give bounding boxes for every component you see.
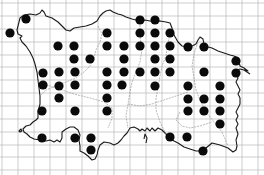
record-dot bbox=[215, 119, 224, 128]
record-dot bbox=[215, 81, 224, 90]
record-dot bbox=[150, 54, 159, 63]
record-dot bbox=[199, 42, 208, 51]
record-dot bbox=[199, 67, 208, 76]
record-dot bbox=[119, 41, 128, 50]
record-dot bbox=[102, 80, 111, 89]
record-dot bbox=[199, 106, 208, 115]
record-dot bbox=[70, 133, 79, 142]
record-dot bbox=[86, 133, 95, 142]
record-dot bbox=[135, 28, 144, 37]
record-dot bbox=[150, 15, 159, 24]
record-dot bbox=[183, 42, 192, 51]
record-dot bbox=[54, 81, 63, 90]
record-dot bbox=[117, 80, 126, 89]
record-dot bbox=[150, 28, 159, 37]
record-dot bbox=[70, 106, 79, 115]
record-dot bbox=[119, 54, 128, 63]
record-dot bbox=[69, 54, 78, 63]
record-dot bbox=[215, 94, 224, 103]
record-dot bbox=[135, 67, 144, 76]
record-dot bbox=[102, 106, 111, 115]
record-dot bbox=[183, 106, 192, 115]
record-dot bbox=[37, 133, 46, 142]
record-dot bbox=[53, 41, 62, 50]
record-dot bbox=[165, 28, 174, 37]
record-dot bbox=[5, 28, 14, 37]
map-canvas bbox=[0, 0, 264, 175]
record-dot bbox=[54, 93, 63, 102]
record-dot bbox=[85, 54, 94, 63]
record-dot bbox=[102, 67, 111, 76]
record-dot bbox=[135, 15, 144, 24]
record-dot bbox=[165, 132, 174, 141]
record-dot bbox=[198, 146, 207, 155]
record-dot bbox=[183, 94, 192, 103]
record-dot bbox=[165, 67, 174, 76]
record-dot bbox=[38, 68, 47, 77]
record-dot bbox=[119, 67, 128, 76]
record-dot bbox=[102, 41, 111, 50]
record-dot bbox=[150, 67, 159, 76]
record-dot bbox=[54, 67, 63, 76]
record-dot bbox=[38, 80, 47, 89]
record-dot bbox=[102, 93, 111, 102]
record-dot bbox=[21, 14, 30, 23]
record-dot bbox=[215, 106, 224, 115]
record-dot bbox=[70, 80, 79, 89]
record-dot bbox=[199, 94, 208, 103]
record-dot bbox=[231, 56, 240, 65]
record-dot bbox=[69, 41, 78, 50]
record-dot bbox=[183, 81, 192, 90]
record-dot bbox=[182, 132, 191, 141]
record-dot bbox=[150, 41, 159, 50]
record-dot bbox=[102, 28, 111, 37]
record-dot bbox=[37, 106, 46, 115]
record-dot bbox=[86, 145, 95, 154]
record-dot bbox=[150, 81, 159, 90]
record-dot bbox=[165, 54, 174, 63]
record-dot bbox=[135, 41, 144, 50]
record-dot bbox=[165, 41, 174, 50]
record-dot bbox=[231, 68, 240, 77]
record-dot bbox=[70, 67, 79, 76]
distribution-map bbox=[0, 0, 264, 175]
